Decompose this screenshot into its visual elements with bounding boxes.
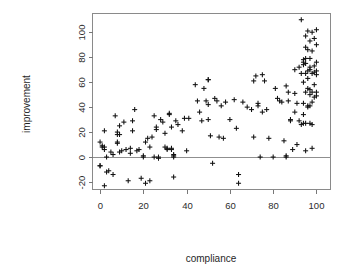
y-tick-label: 60 — [76, 77, 87, 88]
y-tick-label: 100 — [76, 25, 87, 41]
x-tick-label: 0 — [98, 200, 103, 211]
y-tick-label: -20 — [76, 176, 87, 190]
x-tick-label: 20 — [138, 200, 149, 211]
x-tick-label: 60 — [225, 200, 236, 211]
y-tick-label: 0 — [76, 155, 87, 160]
plot-canvas: 020406080100 -20020406080100 compliance … — [0, 0, 350, 279]
y-tick-label: 40 — [76, 102, 87, 113]
x-axis-title: compliance — [186, 253, 237, 264]
y-axis-title: improvement — [21, 75, 32, 133]
scatter-plot-figure: 020406080100 -20020406080100 compliance … — [0, 0, 350, 279]
x-tick-label: 40 — [182, 200, 193, 211]
y-tick-label: 20 — [76, 127, 87, 138]
x-tick-label: 80 — [268, 200, 279, 211]
x-tick-label: 100 — [309, 200, 325, 211]
figure-background — [0, 0, 350, 279]
y-tick-label: 80 — [76, 52, 87, 63]
